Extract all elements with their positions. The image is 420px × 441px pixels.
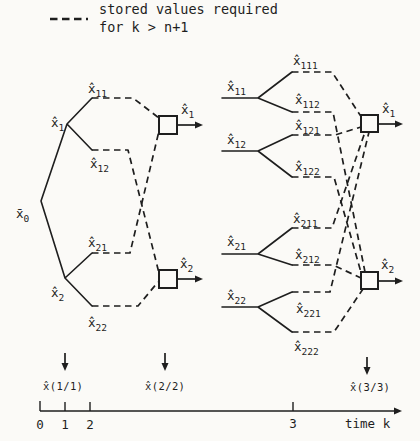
tick-label-2: 2 [86,417,94,432]
tick-label-3: 3 [289,416,297,431]
right-node-label-x221: x̂221 [296,301,321,319]
marker-down-arrow-2 [162,353,169,371]
output-arrow-right-1 [378,121,403,128]
figure-canvas: stored values required for k > n+1 x̄0 x… [0,0,420,441]
right-node-label-x111: x̂111 [293,53,318,71]
marker-down-arrow-1 [62,353,69,371]
left-output-label-x1: x̂1 [181,102,195,120]
tick-label-1: 1 [61,417,69,432]
tick-label-0: 0 [36,417,44,432]
right-node-label-x222: x̂222 [294,339,319,357]
marker-label-1: x̂(1/1) [43,380,83,392]
right-node-label-x11: x̂11 [227,79,246,97]
right-node-label-x12: x̂12 [227,132,246,150]
right-node-label-x121: x̂121 [295,118,320,136]
right-node-label-x112: x̂112 [295,92,320,110]
right-output-label-x1: x̂1 [382,101,396,119]
output-arrow-right-2 [378,278,403,285]
right-node-label-x21: x̂21 [227,234,246,252]
axis-label-time-k: time k [345,416,391,431]
left-dashed-link-x22 [92,282,158,306]
combiner-box-right-1 [361,115,378,132]
right-node-label-x212: x̂212 [295,247,320,265]
right-node-label-x122: x̂122 [295,159,320,177]
right-node-label-x22: x̂22 [227,288,246,306]
combiner-box-right-2 [361,272,378,289]
right-output-label-x2: x̂2 [381,257,394,275]
left-node-label-x12: x̂12 [90,156,109,174]
left-node-label-x1: x̂1 [51,115,65,133]
combiner-box-left-2 [159,270,177,288]
right-dashed-link-x212 [292,265,361,278]
left-node-label-x0: x̄0 [16,206,30,224]
marker-label-2: x̂(2/2) [145,380,185,392]
left-node-label-x22: x̂22 [88,315,107,333]
left-node-label-x11: x̂11 [88,81,107,99]
combiner-box-left-1 [159,116,177,134]
left-node-label-x2: x̂2 [51,285,64,303]
output-arrow-left-1 [177,122,203,129]
left-tree-solid-branches [41,98,92,306]
left-node-label-x21: x̂21 [88,235,107,253]
output-arrow-left-2 [177,276,203,283]
legend-line-2: for k > n+1 [99,19,188,35]
left-dashed-link-x11 [92,98,159,118]
figure-smoothing-tree: stored values required for k > n+1 x̄0 x… [0,0,420,441]
time-axis-arrowhead [394,408,402,415]
marker-label-3: x̂(3/3) [350,381,390,393]
left-output-label-x2: x̂2 [180,256,193,274]
legend-line-1: stored values required [99,1,278,17]
marker-down-arrow-3 [364,357,371,375]
right-node-label-x211: x̂211 [293,211,318,229]
